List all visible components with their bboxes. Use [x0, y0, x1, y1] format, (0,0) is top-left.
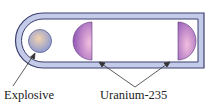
uranium-label: Uranium-235	[100, 88, 167, 103]
explosive-label: Explosive	[4, 88, 54, 103]
explosive-sphere	[29, 30, 52, 53]
